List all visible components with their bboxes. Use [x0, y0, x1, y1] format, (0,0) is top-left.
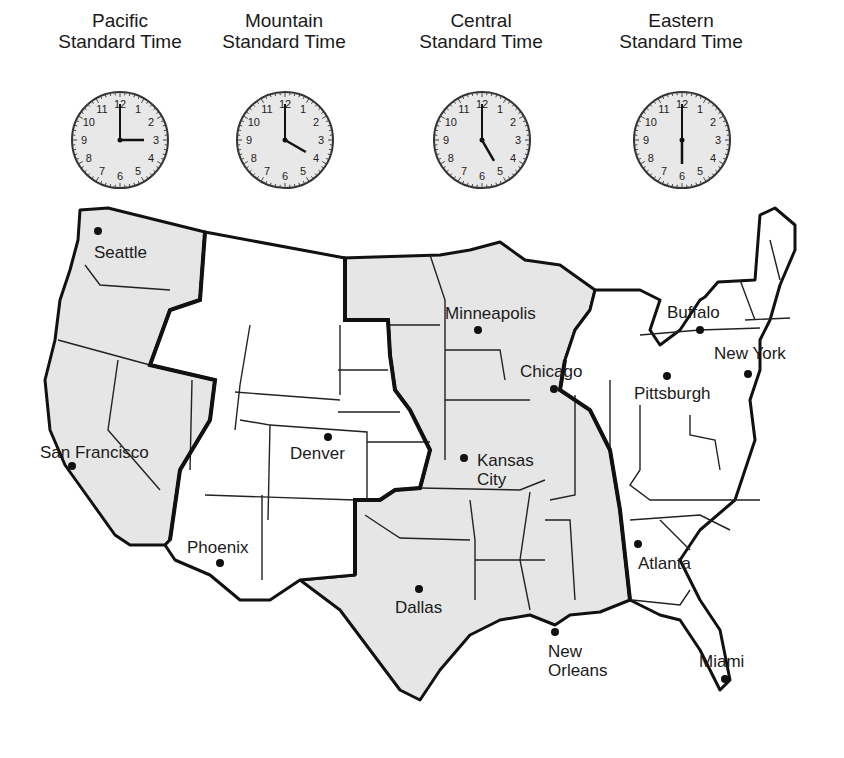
svg-text:9: 9	[246, 134, 252, 146]
city-label-atlanta: Atlanta	[638, 554, 691, 573]
city-label-phoenix: Phoenix	[187, 538, 248, 557]
city-label-denver: Denver	[290, 444, 345, 463]
svg-text:11: 11	[458, 103, 469, 115]
city-label-line1: Kansas	[477, 451, 534, 470]
zone-title-line1: Eastern	[591, 10, 771, 31]
svg-text:3: 3	[318, 134, 324, 146]
city-dot-dallas	[415, 585, 423, 593]
svg-text:9: 9	[643, 134, 649, 146]
svg-text:1: 1	[300, 103, 306, 115]
svg-text:8: 8	[648, 152, 654, 164]
city-dot-seattle	[94, 227, 102, 235]
svg-text:7: 7	[661, 165, 667, 177]
city-dot-chicago	[550, 385, 558, 393]
city-label-seattle: Seattle	[94, 243, 147, 262]
svg-text:4: 4	[510, 152, 516, 164]
svg-text:6: 6	[282, 170, 288, 182]
svg-text:4: 4	[313, 152, 319, 164]
city-label-pittsburgh: Pittsburgh	[634, 384, 711, 403]
svg-text:11: 11	[96, 103, 107, 115]
zone-header-central: Central Standard Time	[391, 10, 571, 52]
zone-title-line2: Standard Time	[591, 31, 771, 52]
svg-text:6: 6	[117, 170, 123, 182]
svg-text:10: 10	[248, 116, 260, 128]
svg-text:9: 9	[443, 134, 449, 146]
city-dot-miami	[721, 675, 729, 683]
svg-text:10: 10	[645, 116, 657, 128]
zone-title-line1: Pacific	[30, 10, 210, 31]
zone-header-eastern: Eastern Standard Time	[591, 10, 771, 52]
city-label-kansas-city: Kansas City	[477, 451, 534, 489]
city-label-chicago: Chicago	[520, 362, 582, 381]
city-label-buffalo: Buffalo	[667, 303, 720, 322]
zone-title-line1: Central	[391, 10, 571, 31]
svg-text:5: 5	[300, 165, 306, 177]
svg-text:1: 1	[697, 103, 703, 115]
city-dot-denver	[324, 433, 332, 441]
city-label-line2: Orleans	[548, 661, 608, 680]
zone-title-line2: Standard Time	[391, 31, 571, 52]
city-label-line2: City	[477, 470, 534, 489]
svg-text:5: 5	[697, 165, 703, 177]
svg-text:8: 8	[86, 152, 92, 164]
svg-text:7: 7	[461, 165, 467, 177]
svg-text:10: 10	[445, 116, 457, 128]
zone-title-line1: Mountain	[194, 10, 374, 31]
zone-header-mountain: Mountain Standard Time	[194, 10, 374, 52]
svg-text:8: 8	[448, 152, 454, 164]
svg-text:2: 2	[710, 116, 716, 128]
svg-text:6: 6	[479, 170, 485, 182]
city-label-new-york: New York	[714, 344, 786, 363]
svg-text:5: 5	[135, 165, 141, 177]
svg-text:2: 2	[313, 116, 319, 128]
city-label-minneapolis: Minneapolis	[445, 304, 536, 323]
svg-text:3: 3	[515, 134, 521, 146]
svg-text:1: 1	[135, 103, 141, 115]
zone-title-line2: Standard Time	[30, 31, 210, 52]
svg-text:6: 6	[679, 170, 685, 182]
city-dot-phoenix	[216, 559, 224, 567]
clock-mountain-icon: 121234567891011	[233, 88, 337, 192]
svg-text:1: 1	[497, 103, 503, 115]
city-dot-minneapolis	[474, 326, 482, 334]
svg-text:7: 7	[264, 165, 270, 177]
svg-text:7: 7	[99, 165, 105, 177]
city-dot-pittsburgh	[663, 372, 671, 380]
us-time-zone-map	[0, 195, 844, 758]
city-dot-san-francisco	[68, 462, 76, 470]
svg-text:5: 5	[497, 165, 503, 177]
city-label-san-francisco: San Francisco	[40, 443, 149, 462]
svg-text:3: 3	[153, 134, 159, 146]
svg-text:3: 3	[715, 134, 721, 146]
clock-central-icon: 121234567891011	[430, 88, 534, 192]
city-dot-new-york	[744, 370, 752, 378]
svg-text:4: 4	[710, 152, 716, 164]
svg-text:9: 9	[81, 134, 87, 146]
city-dot-buffalo	[696, 326, 704, 334]
svg-text:2: 2	[148, 116, 154, 128]
svg-text:11: 11	[261, 103, 272, 115]
zone-title-line2: Standard Time	[194, 31, 374, 52]
city-label-dallas: Dallas	[395, 598, 442, 617]
clock-eastern-icon: 121234567891011	[630, 88, 734, 192]
city-dot-new-orleans	[551, 628, 559, 636]
svg-text:8: 8	[251, 152, 257, 164]
svg-text:4: 4	[148, 152, 154, 164]
city-label-line1: New	[548, 642, 608, 661]
svg-text:10: 10	[83, 116, 95, 128]
city-dot-kansas-city	[460, 454, 468, 462]
svg-text:2: 2	[510, 116, 516, 128]
zone-header-pacific: Pacific Standard Time	[30, 10, 210, 52]
clock-pacific-icon: 121234567891011	[68, 88, 172, 192]
svg-text:11: 11	[658, 103, 669, 115]
city-label-miami: Miami	[699, 652, 744, 671]
city-label-new-orleans: New Orleans	[548, 642, 608, 680]
city-dot-atlanta	[634, 540, 642, 548]
